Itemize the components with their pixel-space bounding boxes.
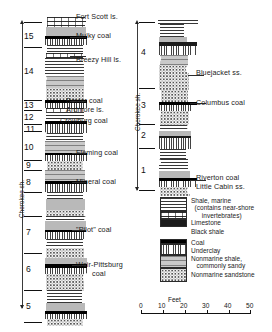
column-edge-notch (186, 65, 191, 73)
right-tick (139, 190, 155, 191)
left-tick (24, 253, 42, 254)
scale-tick-label: 10 (158, 302, 165, 309)
scale-tick (250, 310, 251, 314)
scale-tick (185, 310, 186, 314)
left-tick (24, 22, 42, 23)
legend-text-nonmarine-shale: Nonmarine shale, commonly sandy (191, 255, 245, 270)
legend-text-coal: Coal (191, 239, 204, 246)
scale-tick (229, 310, 230, 314)
bed-sandstone-4 (46, 248, 84, 258)
right-tick (139, 88, 155, 89)
bed-little-cabin-ss (160, 187, 190, 196)
label-columbus-coal: Columbus coal (196, 99, 245, 107)
legend-swatch-underclay (160, 244, 187, 255)
left-unit-number: 5 (26, 302, 31, 311)
stratigraphic-figure: Cherokee sh. 15 14 13 12 11 10 9 8 7 6 5 (0, 0, 272, 332)
column-edge-notch (83, 273, 88, 282)
scale-tick-label: 20 (180, 302, 187, 309)
right-unit-number: 4 (141, 48, 146, 57)
column-edge-notch (156, 159, 161, 165)
column-edge-notch (42, 132, 47, 137)
column-edge-notch (187, 187, 191, 194)
label-weir-pittsburg-coal-2: coal (92, 270, 106, 278)
column-edge-notch (83, 161, 88, 167)
scale-tick-label: 50 (246, 302, 253, 309)
bed-nonmarine-shale-1 (46, 76, 84, 88)
bed-sandstone-6 (47, 319, 83, 326)
label-pilot-coal: "Pilot" coal (76, 226, 111, 234)
column-edge-notch (84, 216, 88, 221)
legend-swatch-shale-marine (160, 197, 187, 211)
scale-tick-label: 30 (202, 302, 209, 309)
legend-swatch-nonmarine-sandstone (160, 268, 187, 282)
label-fleming-coal: Fleming coal (76, 149, 118, 157)
bed-underclay-r1 (159, 46, 197, 55)
left-unit-number: 15 (24, 32, 34, 41)
left-unit-number: 11 (26, 125, 35, 134)
bed-sandstone-r3 (160, 111, 189, 125)
left-tick (24, 47, 42, 48)
left-unit-number: 12 (24, 113, 34, 122)
left-unit-number: 14 (24, 67, 34, 76)
left-unit-number: 7 (26, 228, 31, 237)
legend-text-underclay: Underclay (191, 247, 220, 254)
column-edge-notch (43, 192, 47, 197)
legend-swatch-limestone (160, 211, 187, 219)
left-tick (24, 322, 42, 323)
bed-grey-3 (46, 303, 85, 311)
column-edge-notch (43, 76, 47, 81)
right-unit-number: 1 (141, 166, 146, 175)
label-fort-scott-ls: Fort Scott ls. (76, 13, 118, 21)
scale-tick (207, 310, 208, 314)
label-bluejacket-ss: Bluejacket ss. (196, 69, 242, 77)
bed-grey-1 (46, 199, 85, 210)
column-edge-notch (42, 45, 47, 51)
right-tick (139, 148, 155, 149)
legend-swatch-nonmarine-shale (160, 255, 187, 268)
left-cherokee-bracket (22, 24, 23, 308)
legend-text-black-shale: Black shale (191, 228, 224, 235)
left-unit-number: 8 (26, 178, 31, 187)
scale-title: Feet (168, 296, 181, 303)
column-edge-notch (43, 290, 47, 296)
column-edge-notch (42, 239, 47, 245)
bed-shale-r4 (160, 149, 186, 159)
left-bracket-arrow-bottom (20, 305, 24, 309)
bed-shale-1 (47, 45, 83, 53)
bed-underclay-r3 (159, 138, 191, 149)
left-tick (24, 170, 42, 171)
scale-tick (163, 310, 164, 314)
bed-grey-r3 (159, 171, 190, 178)
label-mulky-coal: Mulky coal (76, 32, 111, 40)
right-unit-number: 3 (141, 101, 146, 110)
left-unit-number: 6 (26, 265, 31, 274)
bed-sandstone-5 (46, 274, 84, 291)
right-tick (139, 124, 155, 125)
left-tick (24, 290, 42, 291)
bed-shale-7 (46, 239, 83, 248)
bed-bluejacket-ss (159, 65, 189, 90)
scale-tick-label: 0 (139, 302, 143, 309)
legend-text-limestone: Limestone (191, 219, 221, 226)
label-ardmore-ls: Ardmore ls. (66, 106, 104, 114)
left-unit-number: 13 (24, 101, 34, 110)
bed-shale-r2 (160, 24, 184, 37)
legend-text-shale-marine: Shale, marine (contains near-shore inver… (191, 197, 254, 219)
bed-shale-8 (47, 290, 82, 303)
label-weir-pittsburg-coal-1: Weir-Pittsburg (76, 261, 123, 269)
scale-tick (141, 310, 142, 314)
bed-sandstone-r2 (161, 90, 188, 102)
column-edge-notch (156, 110, 161, 116)
column-edge-notch (187, 124, 191, 130)
scale-axis (141, 313, 250, 314)
label-mineral-coal: Mineral coal (76, 178, 116, 186)
label-crowburg-coal: Crowburg coal (60, 117, 108, 125)
right-tick (139, 22, 155, 23)
label-bevier-coal: Bevier coal (66, 97, 103, 105)
column-edge-notch (156, 55, 161, 62)
label-riverton-coal: Riverton coal (196, 174, 239, 182)
left-unit-number: 10 (24, 143, 34, 152)
right-unit-number: 2 (141, 131, 146, 140)
bed-nonmarine-shale-r1 (160, 55, 188, 65)
bed-shale-r5 (159, 159, 188, 171)
